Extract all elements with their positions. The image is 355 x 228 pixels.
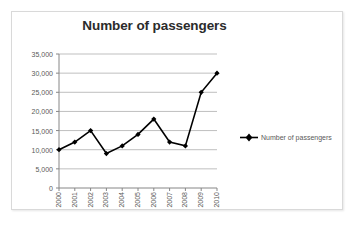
x-axis-label-2009: 2009 (197, 192, 204, 208)
x-axis-label-2001: 2001 (71, 192, 78, 208)
line-diamond-marker-icon (240, 133, 258, 142)
data-point-2008 (183, 143, 188, 148)
x-axis-label-2003: 2003 (102, 192, 109, 208)
x-axis-label-2004: 2004 (118, 192, 125, 208)
chart-container: Number of passengers 05,00010,00015,0002… (11, 11, 343, 210)
legend-label: Number of passengers (261, 134, 332, 141)
data-line-series (59, 73, 217, 153)
x-axis-label-2000: 2000 (55, 192, 62, 208)
series-plot (59, 54, 217, 188)
y-axis-label: 35,000 (32, 51, 53, 58)
x-axis-label-2007: 2007 (166, 192, 173, 208)
y-axis-label: 10,000 (32, 146, 53, 153)
y-axis-label: 5,000 (35, 165, 53, 172)
y-axis-label: 0 (49, 185, 53, 192)
gridlines (59, 54, 217, 169)
x-axis-label-2010: 2010 (213, 192, 220, 208)
data-point-2000 (56, 147, 61, 152)
chart-legend: Number of passengers (240, 133, 332, 142)
x-axis: 2000200120022003200420052006200720082009… (59, 192, 219, 228)
y-axis-label: 25,000 (32, 89, 53, 96)
y-axis: 05,00010,00015,00020,00025,00030,00035,0… (12, 48, 56, 194)
x-axis-label-2006: 2006 (150, 192, 157, 208)
x-axis-label-2005: 2005 (134, 192, 141, 208)
y-axis-label: 30,000 (32, 70, 53, 77)
x-axis-label-2008: 2008 (181, 192, 188, 208)
plot-area (59, 54, 217, 188)
x-axis-label-2002: 2002 (87, 192, 94, 208)
y-axis-label: 15,000 (32, 127, 53, 134)
y-axis-label: 20,000 (32, 108, 53, 115)
chart-title: Number of passengers (42, 18, 267, 33)
